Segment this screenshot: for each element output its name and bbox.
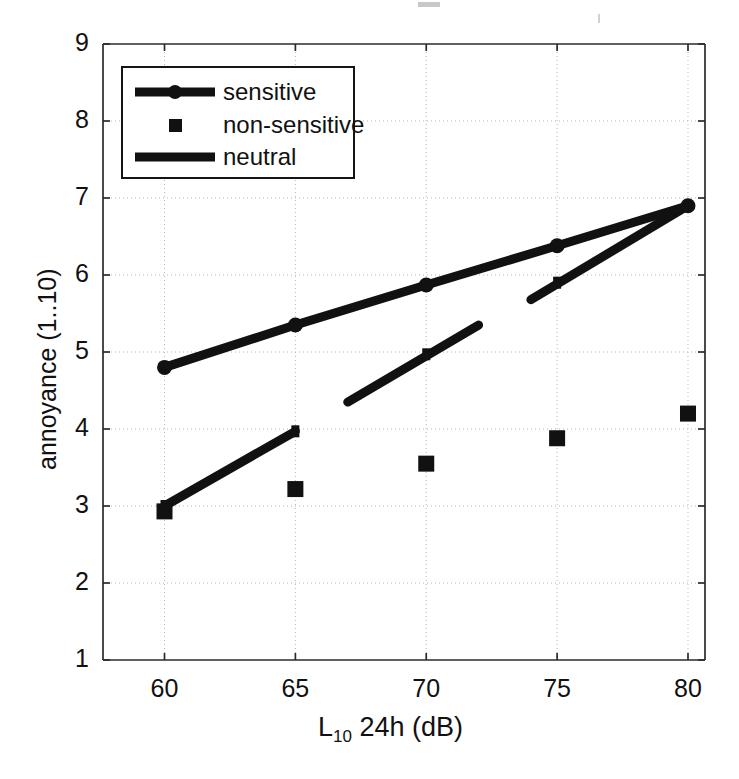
x-tick-label: 65	[265, 674, 325, 703]
series-marker-neutral	[422, 348, 430, 360]
y-tick-label: 3	[55, 490, 89, 519]
x-tick-label: 60	[135, 674, 195, 703]
series-marker-non-sensitive	[680, 406, 696, 422]
legend-label-non-sensitive: non-sensitive	[223, 110, 364, 140]
y-tick-label: 4	[55, 413, 89, 442]
y-tick-label: 5	[55, 336, 89, 365]
series-line-neutral	[348, 325, 479, 402]
legend-row-non-sensitive: non-sensitive	[123, 108, 353, 142]
legend-row-sensitive: sensitive	[123, 75, 353, 109]
series-marker-sensitive	[288, 318, 303, 333]
x-axis-label: L10 24h (dB)	[318, 712, 463, 747]
y-tick-label: 1	[55, 644, 89, 673]
legend: sensitive non-sensitive neutral	[121, 66, 355, 179]
series-marker-sensitive	[550, 238, 565, 253]
legend-marker-circle-line	[131, 75, 219, 109]
legend-row-neutral: neutral	[123, 140, 353, 174]
legend-label-neutral: neutral	[223, 142, 296, 172]
series-marker-neutral	[553, 277, 561, 289]
x-tick-label: 80	[658, 674, 718, 703]
legend-label-sensitive: sensitive	[223, 77, 316, 107]
x-axis-label-subscript: 10	[333, 727, 352, 746]
series-marker-neutral	[291, 425, 299, 437]
y-tick-label: 8	[55, 105, 89, 134]
series-marker-sensitive	[419, 278, 434, 293]
y-tick-label: 9	[55, 28, 89, 57]
x-tick-label: 75	[527, 674, 587, 703]
series-marker-non-sensitive	[418, 456, 434, 472]
series-marker-non-sensitive	[157, 503, 173, 519]
figure-annoyance-vs-l10: annoyance (1..10) L10 24h (dB) sensitive…	[0, 0, 739, 779]
plot-canvas	[0, 0, 739, 779]
series-marker-non-sensitive	[287, 481, 303, 497]
x-tick-label: 70	[396, 674, 456, 703]
series-marker-sensitive	[157, 360, 172, 375]
series-marker-non-sensitive	[549, 430, 565, 446]
y-tick-label: 2	[55, 567, 89, 596]
x-axis-label-base: L	[318, 712, 333, 742]
y-tick-label: 7	[55, 182, 89, 211]
series-line-neutral	[165, 431, 296, 506]
legend-marker-square	[131, 108, 219, 142]
legend-marker-line	[131, 140, 219, 174]
x-axis-label-rest: 24h (dB)	[352, 712, 463, 742]
y-tick-label: 6	[55, 259, 89, 288]
series-marker-sensitive	[680, 198, 695, 213]
